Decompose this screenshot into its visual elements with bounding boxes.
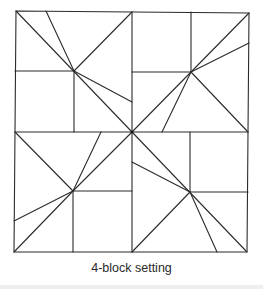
block-top-right	[132, 12, 249, 132]
bottom-band	[0, 285, 263, 289]
block-bottom-right	[132, 132, 248, 252]
block-top-left	[15, 11, 132, 132]
block-bottom-left	[14, 132, 132, 252]
quilt-diagram	[0, 0, 263, 289]
center-node	[131, 131, 134, 134]
figure-caption: 4-block setting	[0, 261, 263, 275]
